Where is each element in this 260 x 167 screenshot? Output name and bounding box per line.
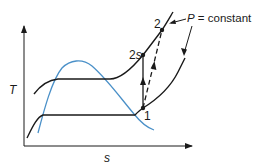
arrow-up-icon <box>151 61 157 70</box>
arrow-down-icon <box>181 48 187 56</box>
y-axis-label: T <box>9 84 16 96</box>
isobar-low-pressure <box>27 58 185 138</box>
point-label-2s-main: 2 <box>129 48 136 62</box>
pressure-symbol: P <box>187 12 195 24</box>
point-label-1: 1 <box>144 110 151 122</box>
x-axis-label: s <box>104 152 110 164</box>
point-label-2: 2 <box>154 18 161 30</box>
isobar-high-pressure <box>34 12 173 94</box>
arrow-up-icon <box>140 77 146 85</box>
saturation-dome <box>38 61 154 133</box>
t-s-diagram <box>0 0 260 167</box>
pressure-annotation-text: = constant <box>195 12 252 24</box>
annotation-leader-lower <box>185 26 192 50</box>
pressure-annotation: P = constant <box>187 13 251 25</box>
arrow-left-icon <box>169 20 176 25</box>
point-label-2s-sub: s <box>136 48 142 62</box>
point-label-2s: 2s <box>129 49 142 61</box>
